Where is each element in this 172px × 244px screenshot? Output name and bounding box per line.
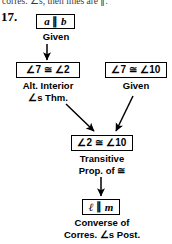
statement-box-angle7-cong-angle2: ∠7 ≅ ∠2 xyxy=(16,62,80,78)
reason-given-angle7-cong-angle10: Given xyxy=(106,80,166,92)
statement-box-angle7-cong-angle10: ∠7 ≅ ∠10 xyxy=(105,62,167,78)
statement-text-angle2-cong-angle10: ∠2 ≅ ∠10 xyxy=(76,138,127,148)
reason-line-1: Alt. Interior xyxy=(10,80,86,92)
reason-line-2: Prop. of ≅ xyxy=(65,165,139,177)
arrow-angle7-cong-angle10-to-angle2-cong-angle10 xyxy=(116,96,133,131)
variable-m: m xyxy=(105,201,114,213)
statement-text-angle7-cong-angle10: ∠7 ≅ ∠10 xyxy=(110,65,161,75)
statement-box-given-a-par-b: a∥b xyxy=(36,14,75,29)
reason-transitive-prop-of-congruence: Transitive Prop. of ≅ xyxy=(65,153,139,176)
arrow-angle7-cong-angle2-to-angle2-cong-angle10 xyxy=(66,104,94,131)
variable-b: b xyxy=(61,15,67,27)
reason-alt-interior-angles-thm: Alt. Interior ∠s Thm. xyxy=(10,80,86,103)
parallel-icon: ∥ xyxy=(50,15,61,27)
statement-box-angle2-cong-angle10: ∠2 ≅ ∠10 xyxy=(71,135,133,151)
statement-text-l-par-m: ℓ∥m xyxy=(88,202,115,213)
statement-box-l-par-m: ℓ∥m xyxy=(82,199,120,215)
reason-line-1: Transitive xyxy=(65,153,139,165)
reason-converse-of-corresponding-angles-post: Converse of Corres. ∠s Post. xyxy=(58,217,146,240)
reason-line-2: Corres. ∠s Post. xyxy=(58,229,146,241)
statement-text-a-par-b: a∥b xyxy=(43,16,67,27)
parallel-icon: ∥ xyxy=(94,200,105,212)
problem-number: 17. xyxy=(1,10,17,24)
reason-given-a-par-b: Given xyxy=(28,31,84,43)
clipped-header-text: corres. ∠s, then lines are ∥. xyxy=(2,0,172,6)
variable-l: ℓ xyxy=(89,201,94,213)
reason-line-2: ∠s Thm. xyxy=(10,92,86,104)
statement-text-angle7-cong-angle2: ∠7 ≅ ∠2 xyxy=(25,65,70,75)
reason-line-1: Converse of xyxy=(58,217,146,229)
